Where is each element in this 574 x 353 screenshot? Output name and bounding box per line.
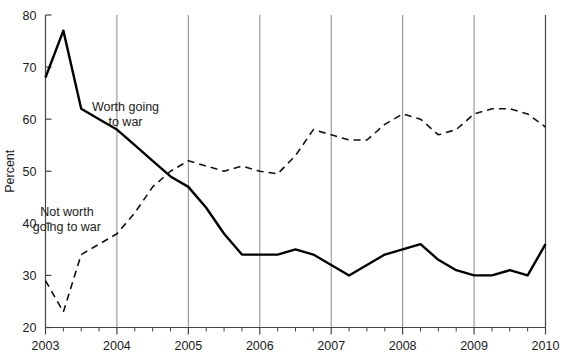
chart-canvas: 20304050607080 2003200420052006200720082… — [0, 0, 574, 353]
y-tick-label-80: 80 — [23, 9, 37, 23]
annotation-line-1: Not worth — [40, 205, 94, 219]
x-tick-label-2004: 2004 — [103, 339, 131, 353]
x-tick-label-2010: 2010 — [532, 339, 560, 353]
x-tick-label-2003: 2003 — [32, 339, 60, 353]
y-tick-label-60: 60 — [23, 113, 37, 127]
chart-background — [0, 0, 574, 353]
x-tick-label-2009: 2009 — [460, 339, 488, 353]
x-tick-label-2008: 2008 — [389, 339, 417, 353]
y-tick-label-20: 20 — [23, 321, 37, 335]
x-tick-label-2006: 2006 — [246, 339, 274, 353]
y-tick-label-50: 50 — [23, 165, 37, 179]
y-axis-title: Percent — [3, 149, 17, 193]
x-tick-label-2005: 2005 — [174, 339, 202, 353]
y-tick-label-70: 70 — [23, 61, 37, 75]
x-tick-label-2007: 2007 — [317, 339, 345, 353]
annotation-not-worth-going-to-war: Not worthgoing to war — [33, 205, 101, 234]
y-tick-label-30: 30 — [23, 269, 37, 283]
annotation-line-1: Worth going — [92, 100, 159, 114]
annotation-line-2: going to war — [33, 220, 101, 234]
annotation-line-2: to war — [108, 115, 142, 129]
line-chart: 20304050607080 2003200420052006200720082… — [0, 0, 574, 353]
